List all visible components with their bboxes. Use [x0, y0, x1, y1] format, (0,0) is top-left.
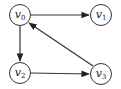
edge-v3-v0	[29, 23, 93, 66]
directed-graph: v0 v1 v2 v3	[0, 0, 121, 89]
node-v2: v2	[10, 63, 31, 84]
node-v1: v1	[91, 5, 112, 26]
edge-v2-v3	[31, 73, 89, 74]
node-v3: v3	[91, 64, 112, 85]
node-v0: v0	[10, 5, 31, 26]
